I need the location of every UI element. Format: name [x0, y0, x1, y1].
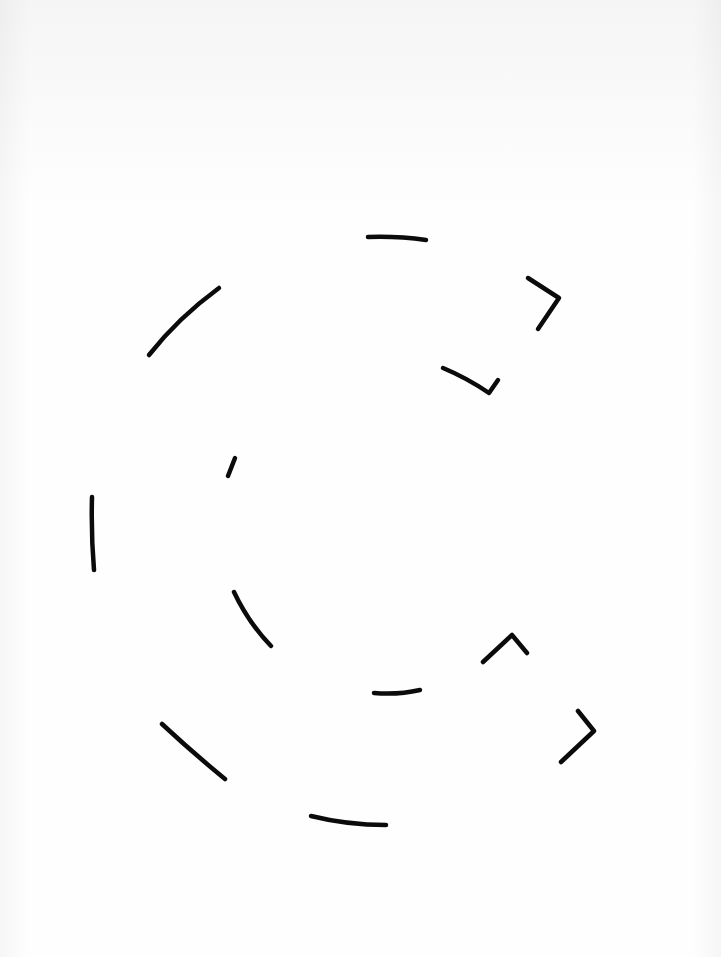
- drawing-canvas: [0, 0, 721, 957]
- inner-arc-dash-left: [234, 592, 271, 646]
- outer-arc-dash-left: [92, 497, 94, 570]
- dashed-cycle-arrows-diagram: [0, 0, 721, 957]
- outer-arrowhead-bottom-right: [561, 711, 594, 762]
- outer-arc-dash-upper-left: [149, 288, 219, 355]
- inner-arrowhead-lower-right: [483, 635, 527, 662]
- outer-arrowhead-top-right: [528, 278, 559, 329]
- outer-ring: [92, 237, 594, 825]
- outer-arc-dash-bottom: [311, 816, 386, 825]
- inner-ring: [228, 368, 527, 694]
- inner-arc-dash-bottom: [374, 690, 420, 694]
- outer-arc-dash-lower-left: [162, 724, 225, 779]
- outer-arc-dash-top: [368, 237, 426, 240]
- inner-arrowhead-upper-right: [443, 368, 498, 393]
- inner-arc-dash-upper-left: [228, 458, 235, 476]
